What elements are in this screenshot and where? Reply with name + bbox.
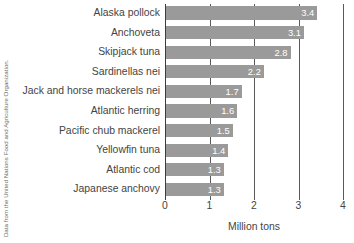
x-tick-label: 0 [162,200,168,211]
bar-value-label: 3.4 [301,6,314,19]
bar: 3.1 [166,26,304,39]
bar-value-label: 1.3 [208,183,221,196]
category-label: Atlantic herring [91,102,160,121]
x-axis-label: Million tons [165,221,343,232]
category-label: Japanese anchovy [73,180,160,199]
category-label: Anchoveta [111,24,160,43]
bar: 1.4 [166,144,228,157]
bar-value-label: 2.2 [248,65,261,78]
bar: 1.3 [166,163,224,176]
category-label: Skipjack tuna [98,43,160,62]
x-tick-label: 3 [296,200,302,211]
bar-value-label: 1.6 [221,104,234,117]
category-label: Jack and horse mackerels nei [23,82,160,101]
x-tick-label: 2 [251,200,257,211]
bar-row: Skipjack tuna2.8 [165,43,343,62]
bar: 1.6 [166,104,237,117]
category-label: Pacific chub mackerel [59,122,160,141]
bar-value-label: 3.1 [288,26,301,39]
bar-row: Anchoveta3.1 [165,24,343,43]
bar-row: Alaska pollock3.4 [165,4,343,23]
bar: 2.8 [166,46,291,59]
bar-row: Jack and horse mackerels nei1.7 [165,82,343,101]
source-attribution-text: Data from the United Nations Food and Ag… [3,59,9,237]
source-attribution: Data from the United Nations Food and Ag… [0,0,18,243]
bar-row: Yellowfin tuna1.4 [165,141,343,160]
category-label: Sardinellas nei [92,63,160,82]
bar-row: Sardinellas nei2.2 [165,63,343,82]
bar-value-label: 1.7 [226,85,239,98]
x-axis-ticks: 01234 [165,200,343,216]
bar: 1.3 [166,183,224,196]
bar-row: Atlantic herring1.6 [165,102,343,121]
bar-row: Atlantic cod1.3 [165,161,343,180]
category-label: Alaska pollock [94,4,160,23]
bar-value-label: 1.4 [212,144,225,157]
gridline-4 [343,4,344,200]
bar-chart-figure: Data from the United Nations Food and Ag… [0,0,354,243]
category-label: Yellowfin tuna [96,141,160,160]
bar: 2.2 [166,65,264,78]
bar: 1.5 [166,124,233,137]
bar-value-label: 2.8 [275,46,288,59]
bar-row: Japanese anchovy1.3 [165,180,343,199]
plot-area: Alaska pollock3.4Anchoveta3.1Skipjack tu… [165,4,343,200]
bar-value-label: 1.5 [217,124,230,137]
bar: 1.7 [166,85,242,98]
x-tick-label: 4 [340,200,346,211]
x-tick-label: 1 [207,200,213,211]
bar: 3.4 [166,6,317,19]
bar-row: Pacific chub mackerel1.5 [165,122,343,141]
bar-value-label: 1.3 [208,163,221,176]
category-label: Atlantic cod [106,161,160,180]
